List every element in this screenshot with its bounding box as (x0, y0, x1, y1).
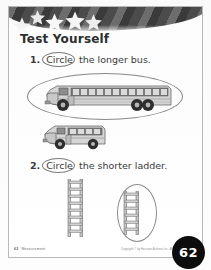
tall-ladder[interactable] (66, 179, 86, 237)
worksheet-page: Test Yourself 1.Circle the longer bus. (0, 0, 211, 270)
question-2-number: 2. (30, 160, 40, 171)
page-title: Test Yourself (20, 32, 109, 46)
footer-left: 62Measurement (14, 247, 45, 251)
footer-page-number: 62 (14, 247, 18, 251)
question-2-rest: the shorter ladder. (79, 160, 167, 171)
question-1-text: 1.Circle the longer bus. (30, 54, 151, 65)
question-1-verb: Circle (43, 54, 76, 65)
question-1-number: 1. (30, 54, 40, 65)
page-number-badge: 62 (172, 236, 205, 269)
question-1-rest: the longer bus. (79, 54, 151, 65)
question-2-verb: Circle (43, 160, 76, 171)
short-school-bus[interactable] (38, 121, 108, 151)
footer-chapter-label: Measurement (21, 247, 45, 251)
question-2-text: 2.Circle the shorter ladder. (30, 160, 167, 171)
answer-circle-shorter-ladder[interactable] (117, 184, 157, 242)
long-school-bus[interactable] (38, 80, 174, 114)
